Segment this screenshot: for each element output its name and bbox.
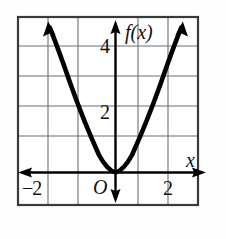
y-tick-label-2: 2: [100, 102, 110, 122]
x-tick-label-neg2: −2: [22, 178, 41, 198]
y-tick-label-4: 4: [100, 36, 110, 56]
function-label: f(x): [125, 22, 153, 42]
coordinate-plane: [0, 0, 226, 239]
x-tick-label-2: 2: [163, 178, 173, 198]
origin-label: O: [93, 177, 107, 197]
graph-figure: 4 2 −2 2 O x f(x): [0, 0, 226, 239]
x-axis-label: x: [186, 150, 195, 170]
